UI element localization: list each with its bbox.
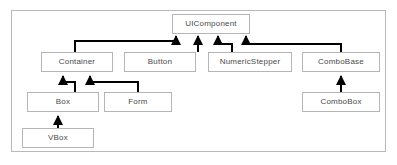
class-node-combobox[interactable]: ComboBox — [302, 92, 380, 112]
class-node-combobase[interactable]: ComboBase — [302, 52, 380, 72]
class-node-uicomponent[interactable]: UIComponent — [172, 14, 250, 34]
class-node-label: Container — [59, 58, 96, 66]
edge-combobase-to-uicomponent — [246, 36, 341, 52]
class-node-label: Box — [56, 98, 70, 106]
class-node-label: NumericStepper — [220, 58, 281, 66]
class-node-container[interactable]: Container — [41, 52, 113, 72]
class-node-button[interactable]: Button — [124, 52, 196, 72]
edge-form-to-container — [90, 76, 138, 92]
class-node-label: Button — [148, 58, 172, 66]
class-node-label: Form — [128, 98, 147, 106]
diagram-canvas: UIComponent Container Button NumericStep… — [0, 0, 397, 165]
edge-container-to-uicomponent — [75, 36, 176, 52]
class-node-form[interactable]: Form — [104, 92, 172, 112]
edge-numericstepper-to-uicomponent — [218, 36, 232, 52]
edge-box-to-container — [63, 76, 75, 92]
class-node-box[interactable]: Box — [27, 92, 99, 112]
class-node-numericstepper[interactable]: NumericStepper — [208, 52, 292, 72]
class-node-label: ComboBox — [320, 98, 361, 106]
class-node-label: ComboBase — [318, 58, 364, 66]
class-node-vbox[interactable]: VBox — [22, 128, 94, 148]
class-node-label: UIComponent — [185, 20, 237, 28]
class-node-label: VBox — [48, 134, 68, 142]
